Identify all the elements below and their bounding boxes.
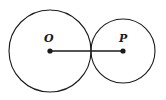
label-O: O — [44, 32, 54, 45]
tangent-circles-diagram: O P — [0, 0, 166, 100]
point-O — [47, 48, 52, 53]
point-P — [120, 48, 125, 53]
label-P: P — [118, 32, 128, 45]
